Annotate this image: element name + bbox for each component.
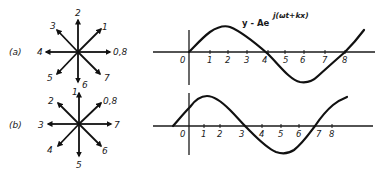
wave-graph-a: 0 1 2 3 4 5 6 7 8 bbox=[153, 26, 375, 85]
wave-equation-exponent: j(ωt+kx) bbox=[272, 11, 309, 20]
part-b-label: (b) bbox=[9, 120, 22, 130]
phasor-label-lower-right: 6 bbox=[102, 146, 108, 156]
phasor-label-down: 6 bbox=[82, 80, 88, 90]
phasor-label-upper-right: 1 bbox=[102, 22, 108, 32]
tick-label: 1 bbox=[207, 55, 212, 65]
phasor-label-right: 7 bbox=[114, 120, 120, 130]
phasor-label-up: 1 bbox=[72, 87, 78, 97]
phasor-label-up: 2 bbox=[75, 8, 81, 18]
tick-label: 3 bbox=[244, 55, 249, 65]
tick-label: 3 bbox=[239, 129, 244, 139]
tick-label: 5 bbox=[283, 55, 288, 65]
wave-equation-main: y - Ae bbox=[242, 18, 270, 28]
tick-label: 1 bbox=[201, 129, 206, 139]
part-a: (a) 0,8 1 2 3 4 5 6 7 y - Ae j(ωt+kx) bbox=[9, 8, 375, 90]
phasor-label-down: 5 bbox=[76, 160, 82, 170]
tick-label: 6 bbox=[300, 55, 306, 65]
arrow-upper-right-icon bbox=[79, 103, 101, 124]
wave-curve-b bbox=[173, 96, 347, 153]
tick-label: 2 bbox=[217, 129, 222, 139]
tick-label: 2 bbox=[225, 55, 230, 65]
phasor-label-left: 4 bbox=[37, 47, 43, 57]
phasor-label-lower-left: 5 bbox=[47, 73, 53, 83]
wave-curve-a bbox=[189, 26, 364, 82]
phasor-label-upper-right: 0,8 bbox=[103, 96, 118, 106]
arrow-upper-left-icon bbox=[58, 103, 79, 124]
phasor-label-right: 0,8 bbox=[113, 47, 128, 57]
phasor-label-lower-left: 4 bbox=[47, 145, 53, 155]
wave-graph-b: 0 1 2 3 4 5 6 7 8 bbox=[153, 93, 373, 155]
tick-label: 5 bbox=[278, 129, 283, 139]
wave-phasor-diagram: (a) 0,8 1 2 3 4 5 6 7 y - Ae j(ωt+kx) bbox=[0, 0, 384, 174]
axis-origin-label-a: 0 bbox=[180, 55, 185, 65]
phasor-label-lower-right: 7 bbox=[104, 73, 110, 83]
wave-equation: y - Ae bbox=[242, 18, 270, 28]
tick-label: 7 bbox=[316, 129, 322, 139]
part-b: (b) 0,8 1 2 3 4 5 6 7 bbox=[9, 87, 373, 170]
arrow-upper-right-icon bbox=[78, 29, 101, 52]
arrow-lower-left-icon bbox=[57, 52, 78, 74]
arrow-upper-left-icon bbox=[57, 30, 78, 52]
phasor-label-upper-left: 2 bbox=[48, 96, 54, 106]
arrow-lower-left-icon bbox=[58, 124, 79, 146]
axis-origin-label-b: 0 bbox=[180, 129, 185, 139]
tick-label: 6 bbox=[296, 129, 302, 139]
tick-label: 4 bbox=[262, 55, 267, 65]
tick-label: 8 bbox=[342, 55, 348, 65]
tick-label: 8 bbox=[329, 129, 335, 139]
phasor-label-left: 3 bbox=[38, 120, 44, 130]
phasor-label-upper-left: 3 bbox=[50, 21, 56, 31]
part-a-label: (a) bbox=[9, 47, 22, 57]
arrow-lower-right-icon bbox=[79, 124, 101, 146]
tick-label: 7 bbox=[322, 55, 328, 65]
arrow-lower-right-icon bbox=[78, 52, 100, 74]
tick-label: 4 bbox=[259, 129, 264, 139]
